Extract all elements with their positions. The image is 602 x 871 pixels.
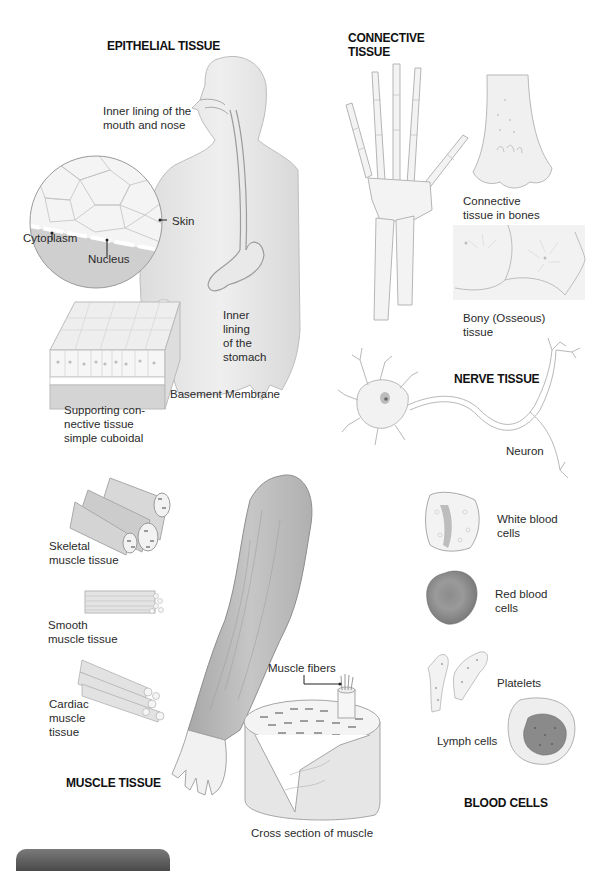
lymph-cells-label: Lymph cells: [437, 734, 497, 748]
blood-cells-heading: BLOOD CELLS: [464, 796, 548, 810]
footer-tab: [16, 849, 170, 871]
